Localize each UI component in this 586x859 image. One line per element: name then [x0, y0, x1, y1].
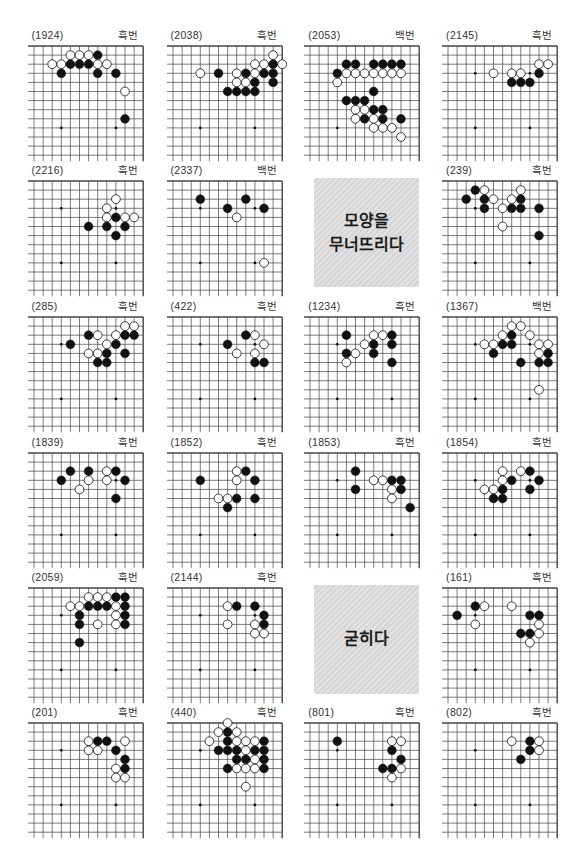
black-stone	[388, 476, 397, 485]
black-stone	[397, 114, 406, 123]
star-point	[474, 207, 477, 210]
white-stone	[250, 629, 259, 638]
white-stone	[223, 601, 232, 610]
white-stone	[47, 59, 56, 68]
black-stone	[388, 746, 397, 755]
white-stone	[250, 736, 259, 745]
white-stone	[120, 773, 129, 782]
go-board	[304, 317, 421, 432]
black-stone	[223, 746, 232, 755]
black-stone	[379, 114, 388, 123]
star-point	[59, 126, 62, 129]
star-point	[336, 803, 339, 806]
star-point	[198, 126, 201, 129]
white-stone	[342, 69, 351, 78]
white-stone	[498, 222, 507, 231]
black-stone	[56, 69, 65, 78]
star-point	[59, 342, 62, 345]
white-stone	[232, 349, 241, 358]
black-stone	[259, 746, 268, 755]
turn-indicator: 흑번	[118, 704, 138, 719]
white-stone	[480, 186, 489, 195]
black-stone	[259, 69, 268, 78]
black-stone	[93, 358, 102, 367]
black-stone	[111, 592, 120, 601]
turn-indicator: 흑번	[395, 434, 415, 449]
white-stone	[388, 485, 397, 494]
black-stone	[388, 339, 397, 348]
black-stone	[388, 330, 397, 339]
black-stone	[453, 610, 462, 619]
white-stone	[379, 69, 388, 78]
problem-number: (1234)	[308, 300, 340, 312]
black-stone	[232, 755, 241, 764]
go-board	[442, 46, 559, 161]
black-stone	[66, 466, 75, 475]
white-stone	[250, 330, 259, 339]
white-stone	[93, 746, 102, 755]
white-stone	[498, 466, 507, 475]
black-stone	[388, 59, 397, 68]
go-board	[304, 46, 421, 161]
black-stone	[544, 358, 553, 367]
white-stone	[526, 638, 535, 647]
black-stone	[84, 601, 93, 610]
white-stone	[250, 59, 259, 68]
white-stone	[388, 69, 397, 78]
black-stone	[250, 494, 259, 503]
white-stone	[370, 330, 379, 339]
black-stone	[223, 204, 232, 213]
star-point	[336, 397, 339, 400]
white-stone	[232, 78, 241, 87]
white-stone	[241, 736, 250, 745]
white-stone	[342, 358, 351, 367]
star-point	[198, 613, 201, 616]
white-stone	[370, 114, 379, 123]
go-board	[167, 588, 284, 703]
problem-number: (2053)	[308, 29, 340, 41]
star-point	[253, 397, 256, 400]
black-stone	[241, 330, 250, 339]
black-stone	[75, 638, 84, 647]
white-stone	[232, 466, 241, 475]
black-stone	[516, 358, 525, 367]
black-stone	[120, 620, 129, 629]
black-stone	[241, 466, 250, 475]
black-stone	[111, 213, 120, 222]
turn-indicator: 백번	[395, 27, 415, 42]
star-point	[474, 613, 477, 616]
black-stone	[498, 339, 507, 348]
turn-indicator: 흑번	[532, 704, 552, 719]
black-stone	[379, 59, 388, 68]
black-stone	[111, 466, 120, 475]
white-stone	[507, 321, 516, 330]
white-stone	[102, 339, 111, 348]
white-stone	[489, 195, 498, 204]
star-point	[474, 262, 477, 265]
black-stone	[250, 358, 259, 367]
black-stone	[342, 330, 351, 339]
turn-indicator: 흑번	[118, 298, 138, 313]
star-point	[198, 342, 201, 345]
white-stone	[195, 69, 204, 78]
go-board	[442, 453, 559, 568]
problem-number: (2059)	[32, 571, 64, 583]
star-point	[198, 803, 201, 806]
go-board	[442, 723, 559, 838]
black-stone	[526, 736, 535, 745]
black-stone	[120, 330, 129, 339]
black-stone	[507, 339, 516, 348]
problem-number: (161)	[446, 571, 472, 583]
white-stone	[250, 764, 259, 773]
black-stone	[195, 476, 204, 485]
black-stone	[93, 736, 102, 745]
star-point	[529, 72, 532, 75]
go-board	[442, 588, 559, 703]
white-stone	[507, 601, 516, 610]
star-point	[474, 479, 477, 482]
star-point	[253, 342, 256, 345]
white-stone	[535, 339, 544, 348]
turn-indicator: 백번	[532, 298, 552, 313]
white-stone	[232, 69, 241, 78]
black-stone	[370, 105, 379, 114]
